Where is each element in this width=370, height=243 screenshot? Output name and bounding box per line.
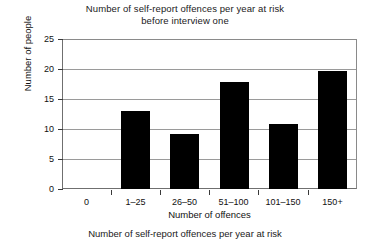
xtick-label-51-100: 51–100 (209, 197, 258, 207)
x-axis-label: Number of offences (62, 209, 357, 220)
xtick-label-26-50: 26–50 (160, 197, 209, 207)
bar-150plus (318, 71, 347, 189)
bar-1-25 (121, 111, 150, 189)
bar-101-150 (269, 124, 298, 189)
xtick-label-1-25: 1–25 (111, 197, 160, 207)
bar-chart-figure: Number of self-report offences per year … (0, 0, 370, 243)
xtick-mark-3 (209, 190, 210, 195)
chart-title-line-1: Number of self-report offences per year … (0, 3, 370, 15)
ytick-label-5: 5 (28, 155, 54, 164)
y-axis-label: Number of people (22, 0, 33, 124)
xtick-mark-1 (111, 190, 112, 195)
bar-series (62, 39, 357, 189)
chart-title-line-2: before interview one (0, 15, 370, 27)
ytick-label-10: 10 (28, 125, 54, 134)
chart-title: Number of self-report offences per year … (0, 3, 370, 26)
xtick-label-0: 0 (62, 197, 111, 207)
bar-26-50 (170, 134, 199, 189)
ytick-label-0: 0 (28, 185, 54, 194)
xtick-label-101-150: 101–150 (258, 197, 308, 207)
figure-caption: Number of self-report offences per year … (0, 228, 370, 239)
ytick-mark-0 (58, 189, 63, 190)
bar-51-100 (220, 82, 249, 189)
xtick-mark-5 (308, 190, 309, 195)
xtick-label-150plus: 150+ (308, 197, 357, 207)
xtick-mark-2 (160, 190, 161, 195)
xtick-mark-4 (258, 190, 259, 195)
